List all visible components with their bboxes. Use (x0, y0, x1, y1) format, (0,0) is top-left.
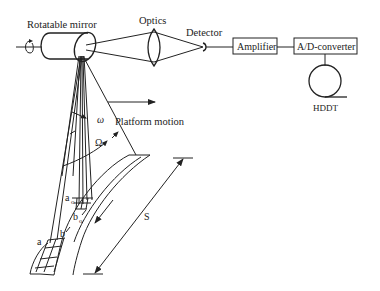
svg-text:b: b (73, 211, 78, 222)
swath-label: S (144, 211, 150, 222)
detector-icon (203, 43, 206, 51)
ifov-label: ω (97, 114, 104, 125)
detector-label: Detector (186, 27, 223, 38)
rotatable-mirror (41, 29, 100, 64)
platform-motion-label: Platform motion (115, 116, 185, 127)
label-b: b (60, 228, 65, 239)
swath-dimension (83, 158, 193, 274)
bo-leader (82, 210, 86, 215)
svg-text:o: o (79, 217, 83, 225)
mirror-label: Rotatable mirror (27, 19, 97, 30)
svg-text:a: a (65, 192, 70, 203)
scanner-diagram: Rotatable mirror Optics Detector Amplifi… (0, 0, 380, 291)
hddt-reel-icon (309, 65, 347, 97)
amplifier-label: Amplifier (237, 41, 277, 52)
scan-rays (50, 56, 136, 243)
label-bo: b o (73, 211, 83, 225)
label-ao: a o (65, 192, 75, 206)
label-a: a (37, 236, 42, 247)
fov-label: Ω (95, 137, 102, 148)
pixel-grid-ao (72, 198, 93, 209)
ifov-tick (70, 131, 75, 134)
svg-text:o: o (71, 198, 75, 206)
adc-label: A/D-converter (297, 41, 356, 52)
ground-motion-arrow (95, 200, 113, 223)
optics-label: Optics (139, 15, 166, 26)
rotation-axis (16, 39, 42, 53)
diagram-canvas: Rotatable mirror Optics Detector Amplifi… (0, 0, 380, 291)
hddt-label: HDDT (313, 103, 338, 113)
fov-arc-end (112, 132, 118, 138)
